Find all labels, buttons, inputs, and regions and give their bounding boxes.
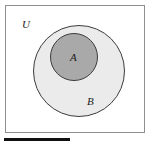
bottom-rule [4,138,70,141]
universal-set-frame: U A B [5,5,145,133]
set-b-label: B [87,96,94,107]
universal-set-label: U [22,19,30,30]
set-a-label: A [70,52,77,63]
venn-diagram-figure: U A B [0,0,152,146]
